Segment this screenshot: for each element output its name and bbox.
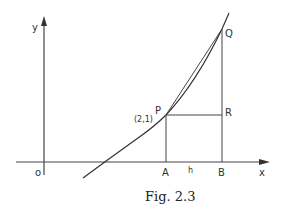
x-axis-arrow-icon bbox=[259, 159, 270, 165]
origin-label: o bbox=[35, 167, 41, 178]
figure-diagram: y o x P (2,1) Q R A B h Fig. 2.3 bbox=[0, 0, 283, 211]
segment-h-label: h bbox=[188, 166, 193, 175]
point-A-label: A bbox=[162, 167, 169, 178]
y-axis-arrow-icon bbox=[41, 16, 47, 26]
point-Q-label: Q bbox=[225, 28, 233, 39]
point-P-label: P bbox=[155, 105, 161, 116]
figure-caption: Fig. 2.3 bbox=[145, 189, 195, 204]
point-R-label: R bbox=[225, 107, 232, 118]
point-B-label: B bbox=[218, 167, 225, 178]
chord-PQ bbox=[166, 29, 222, 115]
point-P-coords: (2,1) bbox=[134, 115, 153, 124]
y-axis-label: y bbox=[32, 22, 38, 33]
curve bbox=[83, 13, 229, 178]
x-axis-label: x bbox=[259, 167, 265, 178]
